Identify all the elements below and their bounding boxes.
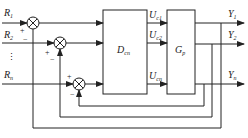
ellipsis-vertical: ⋮ (7, 52, 16, 62)
input-label-r1: R1 (4, 8, 13, 21)
output-label-y2: Y2 (228, 30, 237, 43)
sign-minus-1: − (23, 36, 28, 44)
feedback-yn-path (79, 84, 204, 106)
feedback-y1-path (33, 23, 221, 128)
sign-minus-2: − (50, 56, 55, 64)
sign-plus-n: + (67, 73, 72, 81)
sign-minus-n: − (70, 91, 75, 99)
control-label-u2: Uc2 (149, 30, 162, 43)
control-label-u1: Uc1 (149, 10, 162, 23)
control-label-un: Ucn (149, 71, 162, 84)
output-label-yn: Yn (228, 70, 237, 83)
output-label-y1: Y1 (228, 9, 237, 22)
controller-label: Dcn (117, 45, 130, 58)
input-label-r2: R2 (4, 30, 13, 43)
summing-junction-2 (54, 37, 66, 49)
summing-junction-1 (27, 17, 39, 29)
plant-label: Gp (175, 45, 185, 58)
sign-plus-1: + (20, 27, 25, 35)
summing-junction-n (73, 78, 85, 90)
block-diagram-canvas (0, 0, 248, 138)
sign-plus-2: + (45, 49, 50, 57)
input-label-rn: Rn (4, 70, 13, 83)
